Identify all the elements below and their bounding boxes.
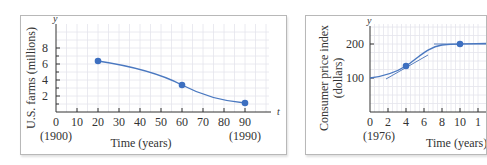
- x-tick-label: 1: [475, 115, 481, 129]
- x-axis-title: Time (years): [426, 136, 486, 150]
- y-axis-title-line2: (dollars): [331, 58, 345, 99]
- data-point: [403, 63, 410, 70]
- cpi-chart-panel: y 200 100 0 2 4 6 8 10 1 (1976) Time (ye…: [305, 15, 487, 155]
- x-axis-title: Time (years): [110, 136, 171, 150]
- x-tick-annotation-1990: (1990): [229, 129, 261, 143]
- x-tick-label: 60: [176, 115, 188, 129]
- x-tick-label: 10: [71, 115, 83, 129]
- x-tick-label: 0: [367, 115, 373, 129]
- x-var-label: t: [277, 106, 280, 117]
- data-point: [242, 100, 249, 107]
- x-tick-label: 20: [92, 115, 104, 129]
- x-tick-label: 30: [113, 115, 125, 129]
- farms-chart: y t 8 6 4 2 0 10 20 30 40 50 60 70 80 90…: [21, 16, 286, 154]
- y-tick-label: 8: [42, 41, 48, 55]
- y-var-label: y: [52, 16, 58, 24]
- x-tick-label: 50: [155, 115, 167, 129]
- x-tick-annotation-1900: (1900): [40, 129, 72, 143]
- grid: [56, 24, 269, 112]
- x-tick-label: 4: [403, 115, 409, 129]
- x-tick-label: 6: [421, 115, 427, 129]
- x-tick-label: 8: [439, 115, 445, 129]
- data-point: [95, 58, 102, 65]
- x-tick-label: 2: [385, 115, 391, 129]
- y-tick-label: 200: [346, 37, 364, 51]
- farms-chart-panel: y t 8 6 4 2 0 10 20 30 40 50 60 70 80 90…: [20, 15, 287, 155]
- y-tick-label: 2: [42, 89, 48, 103]
- cpi-chart: y 200 100 0 2 4 6 8 10 1 (1976) Time (ye…: [306, 16, 486, 154]
- y-tick-label: 4: [42, 73, 48, 87]
- data-point: [457, 41, 464, 48]
- x-tick-label: 0: [53, 115, 59, 129]
- x-tick-label: 70: [197, 115, 209, 129]
- x-tick-label: 90: [239, 115, 251, 129]
- x-ticks: [77, 108, 245, 112]
- x-tick-label: 80: [218, 115, 230, 129]
- x-tick-label: 40: [134, 115, 146, 129]
- grid: [370, 24, 486, 112]
- x-tick-annotation-1976: (1976): [363, 129, 395, 143]
- y-axis-title-line1: Consumer price index: [317, 25, 331, 131]
- y-tick-label: 100: [346, 71, 364, 85]
- y-tick-label: 6: [42, 57, 48, 71]
- x-tick-label: 10: [454, 115, 466, 129]
- y-ticks: [56, 48, 60, 104]
- y-var-label: y: [366, 16, 372, 26]
- data-point: [179, 82, 186, 89]
- y-axis-title: U.S. farms (millions): [24, 27, 38, 129]
